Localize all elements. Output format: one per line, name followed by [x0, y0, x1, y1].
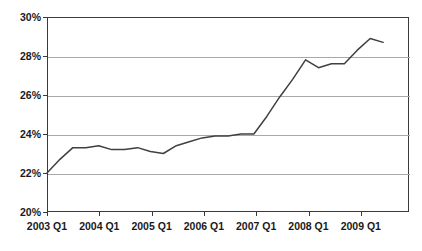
data-series-line: [0, 0, 422, 251]
line-chart: 30% 28% 26% 24% 22% 20% 2003 Q1 2004 Q1 …: [0, 0, 422, 251]
